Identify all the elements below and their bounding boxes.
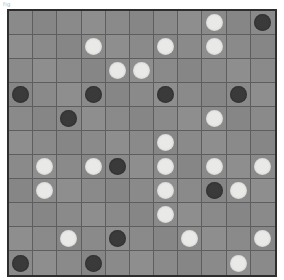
board-cell-empty[interactable]: [154, 11, 178, 35]
board-cell-empty[interactable]: [33, 227, 57, 251]
white-piece[interactable]: [157, 158, 174, 175]
board-cell-empty[interactable]: [202, 227, 226, 251]
board-cell-empty[interactable]: [82, 131, 106, 155]
board-cell-empty[interactable]: [178, 35, 202, 59]
board-cell-empty[interactable]: [154, 59, 178, 83]
white-piece[interactable]: [206, 158, 223, 175]
board-cell-empty[interactable]: [130, 131, 154, 155]
board-cell[interactable]: [82, 155, 106, 179]
dark-piece[interactable]: [12, 86, 29, 103]
board-cell-empty[interactable]: [33, 251, 57, 275]
board-cell-empty[interactable]: [57, 155, 81, 179]
board-cell[interactable]: [106, 155, 130, 179]
board-cell-empty[interactable]: [82, 59, 106, 83]
dark-piece[interactable]: [157, 86, 174, 103]
board-cell[interactable]: [202, 35, 226, 59]
white-piece[interactable]: [254, 230, 271, 247]
board-cell-empty[interactable]: [57, 11, 81, 35]
board-cell-empty[interactable]: [202, 59, 226, 83]
board-cell-empty[interactable]: [227, 11, 251, 35]
board-cell-empty[interactable]: [82, 227, 106, 251]
board-cell-empty[interactable]: [251, 251, 275, 275]
board-cell-empty[interactable]: [33, 11, 57, 35]
board-cell[interactable]: [130, 59, 154, 83]
board-cell-empty[interactable]: [57, 35, 81, 59]
board-cell-empty[interactable]: [178, 107, 202, 131]
white-piece[interactable]: [85, 158, 102, 175]
board-cell-empty[interactable]: [251, 203, 275, 227]
board-cell-empty[interactable]: [57, 83, 81, 107]
board-cell-empty[interactable]: [251, 59, 275, 83]
board-cell-empty[interactable]: [106, 179, 130, 203]
board-cell-empty[interactable]: [57, 59, 81, 83]
board-cell[interactable]: [202, 179, 226, 203]
board-cell[interactable]: [154, 83, 178, 107]
white-piece[interactable]: [230, 255, 247, 272]
board-cell[interactable]: [178, 227, 202, 251]
board-cell-empty[interactable]: [57, 131, 81, 155]
board-cell-empty[interactable]: [57, 179, 81, 203]
board-cell-empty[interactable]: [251, 83, 275, 107]
board-cell-empty[interactable]: [106, 107, 130, 131]
white-piece[interactable]: [109, 62, 126, 79]
board-cell[interactable]: [9, 83, 33, 107]
white-piece[interactable]: [36, 182, 53, 199]
board-cell-empty[interactable]: [178, 251, 202, 275]
board-cell[interactable]: [33, 179, 57, 203]
white-piece[interactable]: [157, 206, 174, 223]
board-cell-empty[interactable]: [33, 35, 57, 59]
board-cell[interactable]: [106, 59, 130, 83]
board-cell[interactable]: [227, 179, 251, 203]
board-cell[interactable]: [227, 251, 251, 275]
board-cell-empty[interactable]: [9, 179, 33, 203]
board-cell-empty[interactable]: [106, 83, 130, 107]
white-piece[interactable]: [206, 110, 223, 127]
board-cell-empty[interactable]: [82, 179, 106, 203]
dark-piece[interactable]: [85, 255, 102, 272]
board-cell-empty[interactable]: [33, 107, 57, 131]
dark-piece[interactable]: [60, 110, 77, 127]
board-cell-empty[interactable]: [33, 83, 57, 107]
white-piece[interactable]: [206, 38, 223, 55]
board-cell[interactable]: [82, 251, 106, 275]
dark-piece[interactable]: [206, 182, 223, 199]
white-piece[interactable]: [181, 230, 198, 247]
white-piece[interactable]: [254, 158, 271, 175]
board-cell-empty[interactable]: [130, 179, 154, 203]
dark-piece[interactable]: [12, 255, 29, 272]
board-cell-empty[interactable]: [9, 35, 33, 59]
white-piece[interactable]: [157, 182, 174, 199]
cell-grid[interactable]: [9, 11, 275, 275]
white-piece[interactable]: [60, 230, 77, 247]
board-cell-empty[interactable]: [106, 11, 130, 35]
board-cell[interactable]: [154, 179, 178, 203]
board-cell-empty[interactable]: [178, 203, 202, 227]
board-cell-empty[interactable]: [130, 107, 154, 131]
board-cell-empty[interactable]: [106, 35, 130, 59]
dark-piece[interactable]: [254, 14, 271, 31]
board-cell[interactable]: [57, 107, 81, 131]
dark-piece[interactable]: [109, 230, 126, 247]
board-cell-empty[interactable]: [9, 107, 33, 131]
board-cell-empty[interactable]: [178, 131, 202, 155]
board-cell[interactable]: [251, 227, 275, 251]
board-cell-empty[interactable]: [130, 155, 154, 179]
board-cell[interactable]: [154, 203, 178, 227]
board-cell-empty[interactable]: [202, 251, 226, 275]
board-cell-empty[interactable]: [9, 203, 33, 227]
board-cell[interactable]: [227, 83, 251, 107]
dark-piece[interactable]: [109, 158, 126, 175]
board-cell-empty[interactable]: [227, 131, 251, 155]
board-cell-empty[interactable]: [9, 11, 33, 35]
board-cell[interactable]: [57, 227, 81, 251]
board-cell[interactable]: [82, 83, 106, 107]
board-cell-empty[interactable]: [33, 203, 57, 227]
board-cell-empty[interactable]: [251, 35, 275, 59]
board-cell[interactable]: [82, 35, 106, 59]
board-cell-empty[interactable]: [9, 227, 33, 251]
board-cell-empty[interactable]: [57, 203, 81, 227]
board-cell-empty[interactable]: [202, 203, 226, 227]
board-cell-empty[interactable]: [178, 179, 202, 203]
board-cell-empty[interactable]: [82, 11, 106, 35]
dark-piece[interactable]: [85, 86, 102, 103]
